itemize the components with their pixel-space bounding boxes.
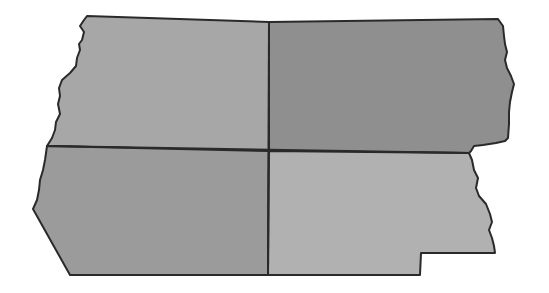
state-map [0, 0, 549, 293]
region-northeast [269, 19, 514, 153]
region-northwest [47, 16, 269, 151]
vertical-border [268, 22, 269, 275]
region-southwest [33, 146, 269, 275]
region-southeast [268, 151, 495, 275]
